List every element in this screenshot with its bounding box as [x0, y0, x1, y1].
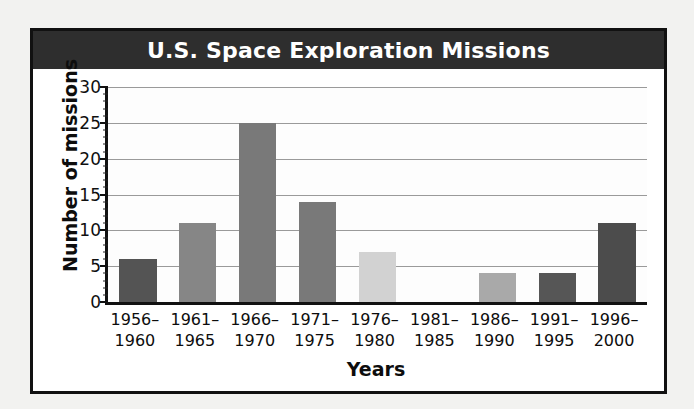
x-axis-tick-label-line: 1990	[464, 330, 524, 351]
x-axis-tick-label-line: 2000	[584, 330, 644, 351]
x-axis-tick-label-line: 1985	[404, 330, 464, 351]
y-axis-tick-mark	[100, 265, 108, 267]
x-axis-tick-label-line: 1971–	[285, 309, 345, 330]
y-axis-tick-mark	[100, 158, 108, 160]
chart-title-bar: U.S. Space Exploration Missions	[33, 31, 664, 69]
x-axis-tick-label: 1976–1980	[345, 309, 405, 351]
chart-poster: U.S. Space Exploration Missions Number o…	[30, 28, 667, 394]
x-axis-tick-label-line: 1976–	[345, 309, 405, 330]
x-axis-tick-label-line: 1970	[225, 330, 285, 351]
plot-area-wrapper: 051015202530	[105, 87, 647, 305]
x-axis-tick-label-line: 1956–	[105, 309, 165, 330]
x-axis-tick-label: 1971–1975	[285, 309, 345, 351]
x-axis-tick-label-line: 1995	[524, 330, 584, 351]
x-axis-tick-label-line: 1986–	[464, 309, 524, 330]
x-axis-tick-label-line: 1965	[165, 330, 225, 351]
x-axis-tick-label: 1966–1970	[225, 309, 285, 351]
x-axis-tick-labels: 1956–19601961–19651966–19701971–19751976…	[105, 309, 647, 357]
y-axis-tick-label: 25	[79, 113, 101, 133]
bar	[359, 252, 396, 302]
y-axis-tick-mark	[100, 301, 108, 303]
plot-area: 051015202530	[105, 87, 647, 305]
x-axis-tick-label-line: 1966–	[225, 309, 285, 330]
x-axis-tick-label: 1956–1960	[105, 309, 165, 351]
bar	[479, 273, 516, 302]
chart-body: Number of missions 051015202530 1956–196…	[33, 69, 664, 391]
y-axis-tick-label: 15	[79, 185, 101, 205]
bar	[299, 202, 336, 302]
x-axis-tick-label: 1991–1995	[524, 309, 584, 351]
bar	[179, 223, 216, 302]
y-axis-tick-label: 20	[79, 149, 101, 169]
bar	[119, 259, 156, 302]
y-axis-tick-mark	[100, 194, 108, 196]
y-axis-tick-label: 5	[90, 256, 101, 276]
bar	[598, 223, 635, 302]
x-axis-tick-label-line: 1991–	[524, 309, 584, 330]
y-axis-tick-mark	[100, 122, 108, 124]
x-axis-tick-label-line: 1975	[285, 330, 345, 351]
y-axis-title: Number of missions	[59, 72, 81, 272]
x-axis-tick-label: 1986–1990	[464, 309, 524, 351]
page-title: U.S. Space Exploration Missions	[147, 38, 550, 63]
x-axis-tick-label-line: 1980	[345, 330, 405, 351]
bar	[539, 273, 576, 302]
bar-series	[108, 87, 647, 302]
y-axis-tick-mark	[100, 86, 108, 88]
x-axis-tick-label: 1996–2000	[584, 309, 644, 351]
y-axis-tick-label: 10	[79, 220, 101, 240]
x-axis-tick-label: 1961–1965	[165, 309, 225, 351]
y-axis-tick-label: 0	[90, 292, 101, 312]
x-axis-tick-label-line: 1996–	[584, 309, 644, 330]
x-axis-tick-label-line: 1961–	[165, 309, 225, 330]
y-axis-tick-label: 30	[79, 77, 101, 97]
x-axis-title: Years	[105, 358, 647, 380]
x-axis-tick-label-line: 1981–	[404, 309, 464, 330]
bar	[239, 123, 276, 302]
x-axis-tick-label-line: 1960	[105, 330, 165, 351]
y-axis-tick-mark	[100, 229, 108, 231]
x-axis-tick-label: 1981–1985	[404, 309, 464, 351]
